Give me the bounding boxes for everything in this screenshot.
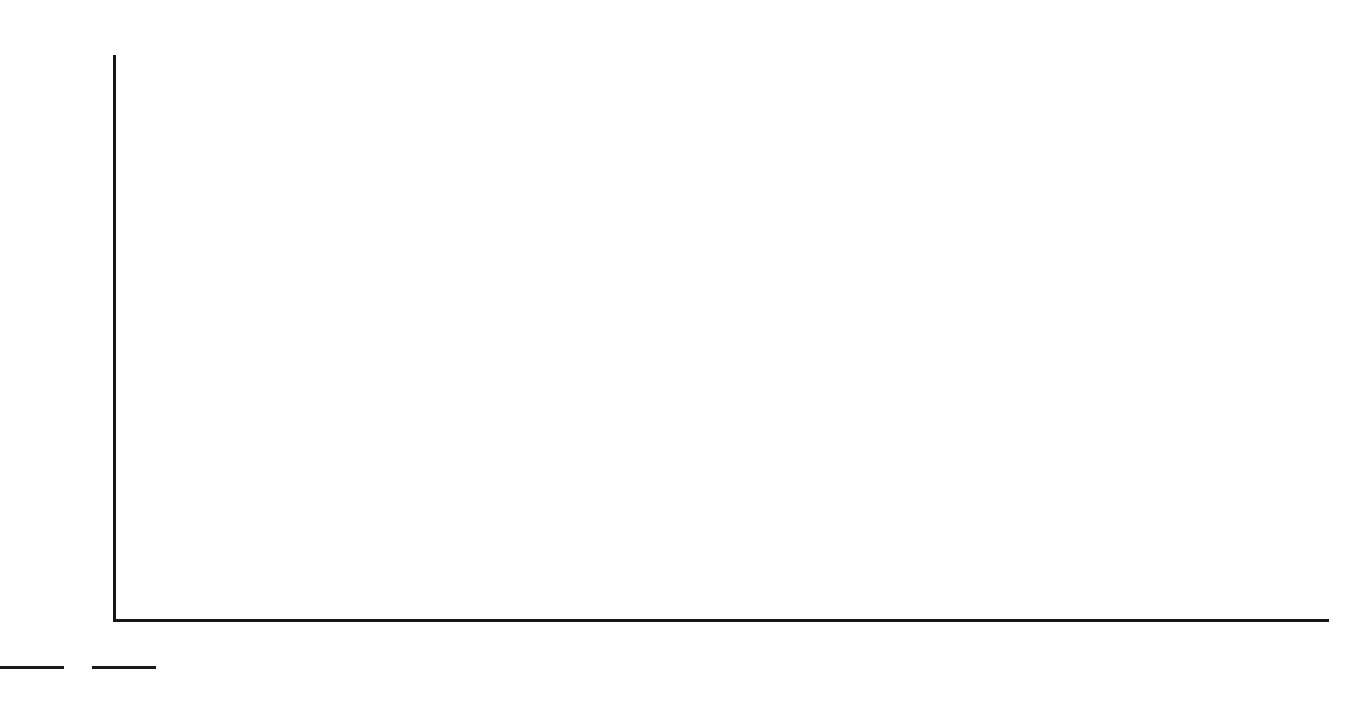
chart-canvas [0, 0, 1351, 712]
group-rule-left [0, 666, 64, 669]
group-label-proprietary [0, 666, 156, 669]
group-rule-right [92, 666, 156, 669]
x-axis-line [113, 619, 1329, 622]
bars-layer [0, 0, 1351, 622]
y-axis-line [113, 55, 116, 622]
